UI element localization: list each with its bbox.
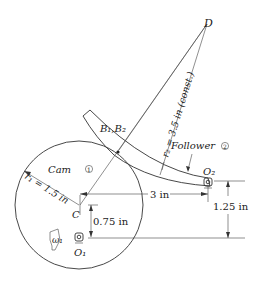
pivot-o1-icon <box>75 233 83 243</box>
label-125in: 1.25 in <box>213 201 249 212</box>
arrow-up-075 <box>89 205 93 211</box>
r2-pointer <box>162 162 164 170</box>
label-r1: r₁ = 1.5 in <box>23 170 71 206</box>
label-075in: 0.75 in <box>93 216 129 227</box>
arrow-right <box>201 192 208 196</box>
label-3in: 3 in <box>150 189 170 200</box>
label-omega: ω₁ <box>52 235 63 245</box>
arrow-down-125 <box>226 232 230 238</box>
follower-arrow <box>186 166 190 172</box>
line-d-b <box>119 24 207 150</box>
label-follower: Follower <box>170 140 216 151</box>
follower-number: 2 <box>223 143 227 150</box>
arrow-up-125 <box>226 181 230 187</box>
label-o1: O₁ <box>74 247 86 258</box>
cam-number: 1 <box>87 166 91 173</box>
arrow-down-075 <box>89 231 93 237</box>
label-cam: Cam <box>48 164 71 175</box>
label-d: D <box>203 17 213 30</box>
label-b: B₁,B₂ <box>99 123 126 134</box>
contact-point <box>116 150 119 153</box>
arrow-left <box>80 192 87 196</box>
label-c: C <box>72 209 80 220</box>
cam-follower-diagram: D B₁,B₂ C O₁ O₂ Cam 1 Follower 2 ω₁ r₁ =… <box>0 0 256 282</box>
label-o2: O₂ <box>203 166 215 177</box>
